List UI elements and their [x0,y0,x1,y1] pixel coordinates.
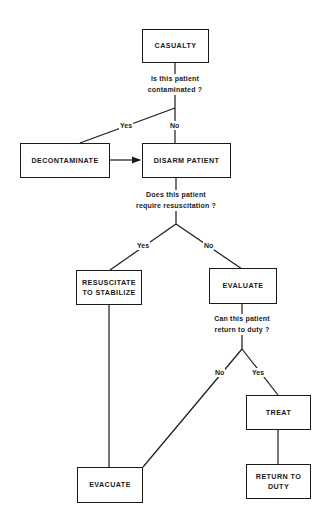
edge-label-return-duty-no: No [214,368,225,377]
question-resuscitation: Does this patient require resuscitation … [121,190,231,211]
node-casualty: CASUALTY [142,29,209,63]
node-evacuate: EVACUATE [77,467,143,503]
node-evaluate: EVALUATE [209,268,277,304]
edge-label-resuscitation-yes: Yes [136,241,150,250]
question-return-to-duty: Can this patient return to duty ? [205,314,279,335]
edge-label-return-duty-yes: Yes [251,368,265,377]
question-contaminated: Is this patient contaminated ? [135,74,215,95]
node-treat: TREAT [246,395,311,430]
node-resuscitate: RESUSCITATE TO STABILIZE [76,270,142,305]
edge-label-contaminated-no: No [169,121,180,130]
node-disarm-patient: DISARM PATIENT [142,143,231,178]
edge-label-contaminated-yes: Yes [119,121,133,130]
node-decontaminate: DECONTAMINATE [20,143,110,178]
edge-label-resuscitation-no: No [203,241,214,250]
node-return-to-duty: RETURN TO DUTY [246,464,311,499]
